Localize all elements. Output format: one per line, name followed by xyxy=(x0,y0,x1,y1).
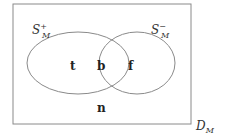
venn-diagram: t b f n S+M S−M DM xyxy=(0,0,226,138)
set-negative-ellipse xyxy=(99,32,175,94)
region-b-label: b xyxy=(97,59,105,73)
region-t-label: t xyxy=(70,59,76,73)
set-positive-label: S+M xyxy=(32,22,51,40)
region-f-label: f xyxy=(128,59,134,73)
set-negative-label: S−M xyxy=(151,22,170,40)
set-positive-ellipse xyxy=(27,32,129,94)
region-n-label: n xyxy=(97,101,106,115)
universe-label: DM xyxy=(195,119,215,135)
